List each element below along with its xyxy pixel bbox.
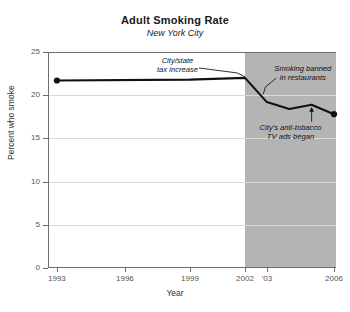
y-axis-tick-label: 20 — [31, 91, 40, 99]
annotation-tax-increase-line1: City/state — [157, 56, 198, 65]
x-axis-tick — [245, 268, 246, 272]
y-axis-tick — [43, 268, 48, 269]
x-axis-tick — [125, 268, 126, 272]
x-axis-tick-label: '03 — [262, 275, 272, 283]
x-axis-tick — [267, 268, 268, 272]
annotation-tax-increase-line2: tax increase — [157, 65, 198, 74]
annotation-smoking-banned-line1: Smoking banned — [274, 64, 331, 73]
annotation-leader-line — [199, 68, 245, 77]
y-axis-tick-label: 25 — [31, 48, 40, 56]
annotation-smoking-banned: Smoking banned in restaurants — [274, 64, 331, 83]
x-axis-tick-label: 2006 — [325, 275, 343, 283]
x-axis-tick-label: 1993 — [48, 275, 66, 283]
x-axis-title: Year — [0, 288, 350, 298]
x-axis-tick-label: 2002 — [236, 275, 254, 283]
annotation-smoking-banned-line2: in restaurants — [274, 73, 331, 82]
annotation-tv-ads: City's anti-tobacco TV ads began — [260, 123, 322, 142]
x-axis-tick-label: 1999 — [181, 275, 199, 283]
y-axis-tick-label: 0 — [36, 264, 40, 272]
x-axis-tick-label: 1996 — [116, 275, 134, 283]
y-axis-tick-label: 5 — [36, 221, 40, 229]
x-axis-tick — [190, 268, 191, 272]
annotation-tv-ads-line1: City's anti-tobacco — [260, 123, 322, 132]
plot-area: 0510152025 1993199619992002'032006 City/… — [48, 52, 336, 268]
chart-figure: Adult Smoking Rate New York City Percent… — [0, 0, 350, 312]
annotation-leaders-layer — [48, 52, 336, 268]
y-axis-tick-label: 10 — [31, 178, 40, 186]
chart-title: Adult Smoking Rate — [0, 14, 350, 26]
y-axis-tick-label: 15 — [31, 134, 40, 142]
annotation-tax-increase: City/state tax increase — [157, 56, 198, 75]
y-axis-title: Percent who smoke — [6, 85, 16, 160]
annotation-tv-ads-line2: TV ads began — [260, 132, 322, 141]
chart-subtitle: New York City — [0, 28, 350, 38]
annotation-arrowhead — [309, 107, 314, 112]
x-axis-tick — [57, 268, 58, 272]
x-axis-tick — [334, 268, 335, 272]
